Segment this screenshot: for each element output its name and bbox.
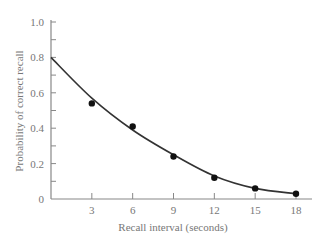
data-point xyxy=(252,185,258,191)
x-tick-label: 12 xyxy=(209,204,220,216)
axes xyxy=(51,20,312,199)
data-point xyxy=(170,153,176,159)
data-point xyxy=(211,175,217,181)
data-point xyxy=(293,190,299,196)
y-tick-label: 0.2 xyxy=(30,158,44,170)
x-tick-label: 15 xyxy=(250,204,262,216)
data-points xyxy=(89,100,300,197)
y-tick-label: 0.6 xyxy=(30,87,44,99)
y-tick-label: 0.8 xyxy=(30,51,44,63)
y-tick-label: 1.0 xyxy=(30,16,44,28)
x-axis-ticks: 369121518 xyxy=(89,193,302,216)
x-tick-label: 9 xyxy=(171,204,177,216)
x-axis-label: Recall interval (seconds) xyxy=(118,221,228,234)
y-axis-ticks: 00.20.40.60.81.0 xyxy=(30,16,56,205)
data-point xyxy=(129,123,135,129)
x-tick-label: 6 xyxy=(130,204,136,216)
y-tick-label: 0.4 xyxy=(30,122,44,134)
x-tick-label: 3 xyxy=(89,204,95,216)
fitted-curve xyxy=(51,57,296,193)
y-axis-label: Probability of correct recall xyxy=(13,50,25,171)
recall-chart: 00.20.40.60.81.0 369121518 Recall interv… xyxy=(0,0,324,244)
y-tick-label: 0 xyxy=(39,193,45,205)
x-tick-label: 18 xyxy=(291,204,303,216)
data-point xyxy=(89,100,95,106)
